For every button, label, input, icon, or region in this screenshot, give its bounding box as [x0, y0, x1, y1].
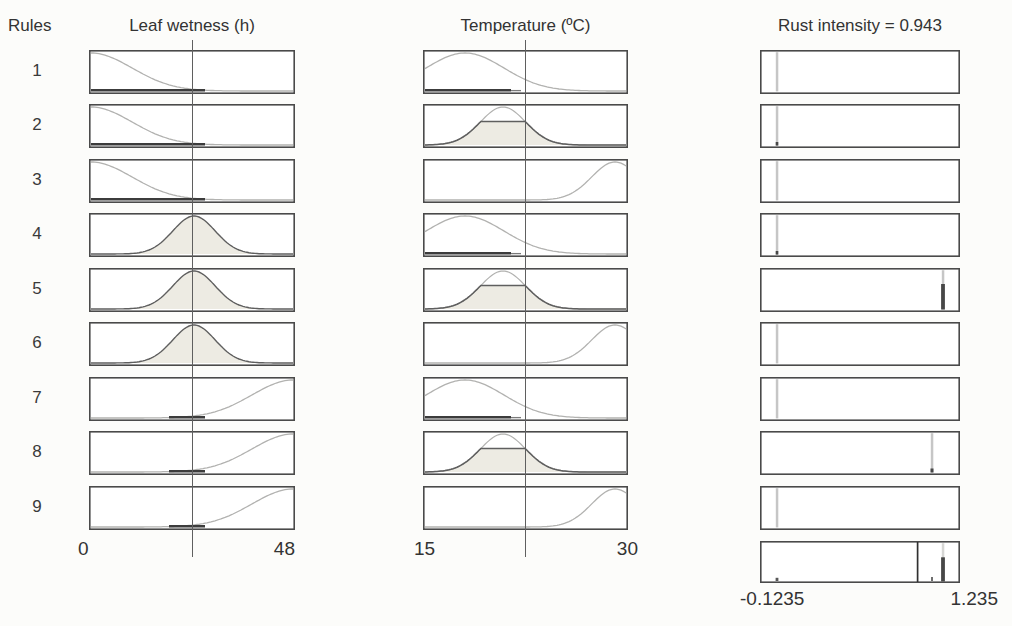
rule-number-5: 5 — [18, 279, 56, 299]
leaf-wetness-title: Leaf wetness (h) — [89, 15, 295, 37]
aggregate-output-plot — [760, 541, 960, 583]
temperature-input-line — [525, 40, 526, 557]
leaf-wetness-max-label: 48 — [274, 538, 295, 560]
rules-header: Rules — [8, 15, 51, 37]
rust-intensity-axis: -0.1235 1.235 — [740, 588, 998, 610]
fuzzy-rule-viewer-figure: Rules Leaf wetness (h) Temperature (ºC) … — [0, 0, 1012, 626]
leaf-wetness-min-label: 0 — [78, 538, 89, 560]
rule-number-3: 3 — [18, 170, 56, 190]
rule-7-output-plot — [760, 377, 960, 421]
rule-4-output-plot — [760, 213, 960, 257]
rule-number-8: 8 — [18, 442, 56, 462]
rule-6-output-plot — [760, 322, 960, 366]
rule-3-output-plot — [760, 159, 960, 203]
rule-number-1: 1 — [18, 61, 56, 81]
rule-9-output-plot — [760, 486, 960, 530]
temperature-max-label: 30 — [617, 538, 638, 560]
rule-number-9: 9 — [18, 497, 56, 517]
rust-intensity-title: Rust intensity = 0.943 — [760, 15, 960, 37]
leaf-wetness-input-line — [192, 40, 193, 557]
rust-intensity-min-label: -0.1235 — [740, 588, 804, 610]
rule-8-output-plot — [760, 431, 960, 475]
rule-number-2: 2 — [18, 115, 56, 135]
temperature-min-label: 15 — [414, 538, 435, 560]
temperature-title: Temperature (ºC) — [423, 15, 628, 37]
rule-number-6: 6 — [18, 333, 56, 353]
rule-number-7: 7 — [18, 388, 56, 408]
rust-intensity-max-label: 1.235 — [950, 588, 998, 610]
leaf-wetness-axis: 0 48 — [78, 538, 295, 560]
rule-1-output-plot — [760, 50, 960, 94]
rule-number-4: 4 — [18, 224, 56, 244]
temperature-axis: 15 30 — [414, 538, 638, 560]
rule-2-output-plot — [760, 104, 960, 148]
rule-5-output-plot — [760, 268, 960, 312]
